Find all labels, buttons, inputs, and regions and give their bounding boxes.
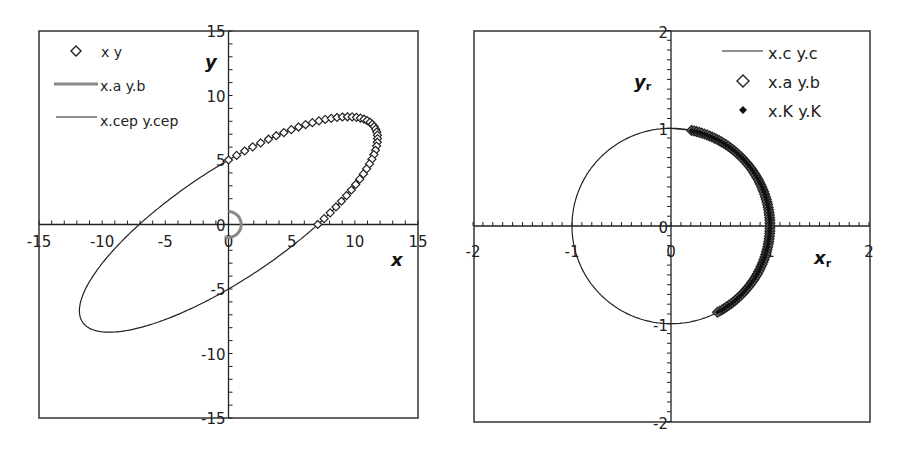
diamond-marker [241, 147, 249, 155]
y-tick-label: -15 [201, 410, 226, 428]
y-tick-label: 0 [216, 217, 226, 235]
y-tick-label: -1 [653, 317, 668, 335]
y-tick-label: 1 [658, 121, 668, 139]
legend-item-x-a-y-b: x.a y.b [54, 78, 146, 94]
diamond-marker [257, 139, 265, 147]
x-tick-label: 0 [666, 243, 676, 261]
y-tick-label: 15 [206, 23, 225, 41]
legend-label: x.a y.b [768, 73, 820, 92]
legend-label: x.cep y.cep [100, 113, 178, 129]
right-chart: -2-1012210-1-2 yr xr x.c y.c x.a y.b x.K… [466, 24, 874, 433]
left-y-axis-title: y [205, 51, 218, 72]
open-diamond-icon [71, 46, 81, 56]
x-tick-label: 2 [864, 243, 874, 261]
y-tick-label: -2 [653, 415, 668, 433]
legend-item-x-cep-y-cep: x.cep y.cep [56, 113, 178, 129]
x-tick-label: -15 [27, 233, 52, 251]
x-tick-label: 0 [224, 233, 234, 251]
x-tick-label: -10 [90, 233, 115, 251]
right-x-axis-title: xr [813, 247, 832, 270]
right-legend: x.c y.c x.a y.b x.K y.K [722, 44, 821, 121]
x-tick-label: 10 [345, 233, 364, 251]
y-tick-label: 0 [658, 219, 668, 237]
legend-item-x-c-y-c: x.c y.c [722, 44, 818, 63]
legend-label: x y [101, 44, 122, 60]
markers-x-a-y-b-and-x-K-y-K [687, 125, 775, 317]
diamond-marker [233, 151, 241, 159]
markers-x-y [225, 113, 382, 229]
right-y-axis-title: yr [634, 71, 652, 93]
legend-item-x-K-y-K: x.K y.K [739, 102, 821, 121]
legend-label: x.c y.c [768, 44, 818, 63]
x-tick-label: 15 [408, 233, 427, 251]
diamond-marker [265, 135, 273, 143]
y-tick-label: 10 [206, 88, 225, 106]
left-chart: -15-10-5051015151050-5-10-15 y x x y x.a… [27, 23, 428, 428]
y-tick-label: -10 [201, 346, 226, 364]
x-tick-label: -5 [158, 233, 173, 251]
left-x-axis-title: x [390, 249, 404, 270]
filled-diamond-icon [739, 106, 747, 114]
diamond-marker [272, 132, 280, 140]
open-diamond-icon [737, 75, 749, 87]
x-tick-label: -2 [466, 243, 481, 261]
y-tick-label: 2 [658, 24, 668, 42]
legend-item-x-a-y-b: x.a y.b [737, 73, 820, 92]
left-legend: x y x.a y.b x.cep y.cep [54, 44, 178, 129]
y-tick-label: -5 [211, 281, 226, 299]
diamond-marker [225, 156, 233, 164]
legend-label: x.K y.K [768, 102, 821, 121]
legend-item-x-y: x y [71, 44, 122, 60]
x-tick-label: 5 [287, 233, 297, 251]
diamond-marker [249, 143, 257, 151]
legend-label: x.a y.b [100, 78, 146, 94]
figure: -15-10-5051015151050-5-10-15 y x x y x.a… [0, 0, 901, 450]
